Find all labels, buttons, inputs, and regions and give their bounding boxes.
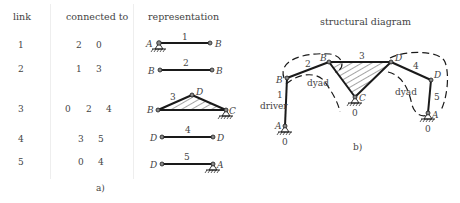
- link-5: [428, 80, 431, 113]
- rep-1-link-label: 1: [182, 32, 188, 42]
- label-link-2: 2: [305, 59, 311, 69]
- rep-1-right-label: B: [214, 39, 222, 49]
- rep-4-link-label: 4: [185, 125, 191, 135]
- rep-3-top-label: D: [195, 87, 203, 97]
- rep-link-5: D 5 A: [149, 152, 224, 173]
- rep-link-2: B 2 B: [147, 58, 223, 76]
- rep-5-link-label: 5: [184, 152, 190, 162]
- label-link-5: 5: [434, 92, 440, 102]
- label-B-top: B: [319, 53, 327, 63]
- link-3-triangle: [329, 62, 391, 97]
- label-dyad-left: dyad: [307, 78, 329, 88]
- label-dyad-right: dyad: [395, 87, 417, 97]
- label-ground-mid: 0: [352, 108, 358, 118]
- label-D-right: D: [433, 70, 441, 80]
- label-link-3: 3: [359, 51, 365, 61]
- rep-5-right-label: A: [216, 160, 224, 170]
- rep-1-left-label: A: [145, 39, 153, 49]
- link-4: [391, 62, 431, 80]
- label-D-top: D: [394, 53, 402, 63]
- drawings: A 1 B B 2 B B 3 D C D 4 D D 5: [0, 0, 460, 203]
- rep-3-right-label: C: [229, 106, 236, 116]
- label-link-1: 1: [277, 90, 283, 100]
- structural-title: structural diagram: [320, 16, 411, 27]
- rep-5-left-label: D: [149, 160, 157, 170]
- rep-3-link-label: 3: [170, 92, 176, 102]
- label-A-left: A: [274, 121, 282, 131]
- rep-link-3: B 3 D C: [146, 87, 236, 119]
- rep-3-left-label: B: [146, 105, 154, 115]
- rep-2-left-label: B: [147, 66, 155, 76]
- rep-4-left-label: D: [149, 133, 157, 143]
- label-B-left: B: [275, 75, 283, 85]
- rep-link-4: D 4 D: [149, 125, 224, 143]
- rep-4-right-label: D: [216, 133, 224, 143]
- rep-2-link-label: 2: [183, 58, 189, 68]
- label-link-4: 4: [413, 61, 419, 71]
- structural-diagram: structural diagram B B D D C A: [260, 16, 447, 152]
- caption-b: b): [353, 142, 362, 152]
- label-A-right: A: [431, 110, 439, 120]
- label-driver: driver: [260, 101, 288, 111]
- label-ground-left: 0: [282, 137, 288, 147]
- label-ground-right: 0: [425, 124, 431, 134]
- rep-2-right-label: B: [215, 66, 223, 76]
- label-C: C: [359, 93, 366, 103]
- rep-link-1: A 1 B: [145, 32, 222, 52]
